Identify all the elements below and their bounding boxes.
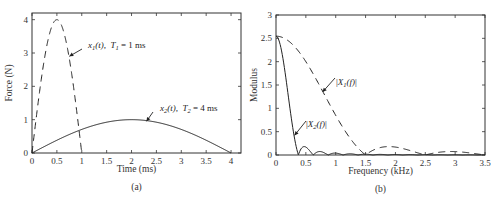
- annotation-label: |X1(f)|: [336, 77, 357, 88]
- y-tick-label: 2.5: [261, 33, 273, 43]
- annotation-args: (f): [317, 119, 326, 129]
- series-line-1: [32, 20, 82, 153]
- x-tick-label: 3: [179, 156, 184, 166]
- panel-b-frequency-domain: 00.511.522.533.500.511.522.53Frequency (…: [249, 10, 491, 195]
- series-line-2: [276, 36, 485, 155]
- panel-label: (b): [375, 184, 386, 195]
- y-tick-label: 2: [268, 57, 273, 67]
- y-tick-label: 0: [268, 150, 273, 160]
- annotation-args: (t),: [95, 40, 110, 50]
- annotation-label: |X2(f)|: [306, 119, 327, 130]
- y-tick-label: 1.5: [261, 80, 273, 90]
- x-tick-label: 3.5: [479, 158, 491, 168]
- x-tick-label: 0.5: [300, 158, 312, 168]
- x-tick-label: 0.5: [51, 156, 63, 166]
- y-tick-label: 1: [268, 103, 273, 113]
- panel-label: (a): [131, 182, 142, 193]
- y-tick-label: 3: [268, 10, 273, 20]
- annotation-label: x2(t), T2 = 4 ms: [159, 103, 218, 114]
- y-axis-label: Modulus: [249, 68, 259, 102]
- y-axis-label: Force (N): [4, 64, 15, 101]
- annotation-bar: |: [325, 119, 327, 129]
- x-tick-label: 3.5: [201, 156, 213, 166]
- y-tick-label: 0: [24, 148, 29, 158]
- series-line-1: [276, 36, 485, 155]
- x-axis-label: Time (ms): [117, 164, 157, 175]
- x-tick-label: 0: [30, 156, 35, 166]
- y-tick-label: 0.5: [261, 127, 273, 137]
- figure: 00.511.522.533.5401234Time (ms)Force (N)…: [0, 0, 503, 205]
- x-tick-label: 1.5: [101, 156, 113, 166]
- x-tick-label: 1: [333, 158, 338, 168]
- x-tick-label: 2.5: [420, 158, 432, 168]
- plot-frame: [276, 15, 485, 155]
- annotation-args: (t),: [167, 103, 182, 113]
- x-tick-label: 1: [80, 156, 85, 166]
- x-tick-label: 3: [453, 158, 458, 168]
- annotation-label: x1(t), T1 = 1 ms: [87, 40, 146, 51]
- annotation-param-value: = 1 ms: [119, 40, 146, 50]
- x-tick-label: 0: [274, 158, 279, 168]
- annotation-bar: |: [355, 77, 357, 87]
- x-axis-label: Frequency (kHz): [348, 166, 413, 177]
- y-tick-label: 4: [24, 15, 29, 25]
- panel-a-time-domain: 00.511.522.533.5401234Time (ms)Force (N)…: [4, 13, 241, 193]
- annotation-param-value: = 4 ms: [191, 103, 218, 113]
- y-tick-label: 3: [24, 48, 29, 58]
- series-line-2: [32, 120, 231, 153]
- y-tick-label: 1: [24, 115, 29, 125]
- x-tick-label: 4: [229, 156, 234, 166]
- y-tick-label: 2: [24, 81, 29, 91]
- annotation-args: (f): [347, 77, 356, 87]
- plot-frame: [32, 13, 241, 153]
